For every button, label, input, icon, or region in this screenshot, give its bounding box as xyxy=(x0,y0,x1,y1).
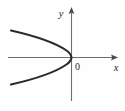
y-axis-label: y xyxy=(58,8,64,19)
x-axis-label: x xyxy=(113,62,119,73)
parabola-figure: y x 0 xyxy=(0,0,125,111)
figure-canvas: y x 0 xyxy=(0,0,125,111)
y-axis-arrow-icon xyxy=(69,7,75,14)
origin-label: 0 xyxy=(75,61,80,72)
